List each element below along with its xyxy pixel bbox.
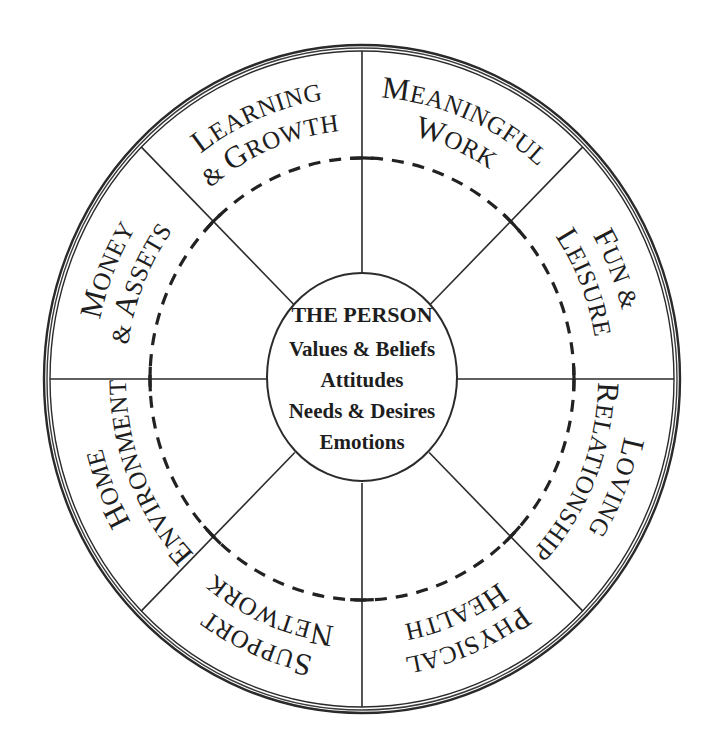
hub-line-values: Values & Beliefs: [289, 337, 435, 361]
dashed-tick: [503, 526, 520, 544]
hub-line-attitudes: Attitudes: [321, 368, 404, 392]
spoke-line: [429, 147, 582, 305]
hub-title: THE PERSON: [291, 302, 432, 327]
hub-line-emotions: Emotions: [319, 430, 404, 454]
dashed-tick: [204, 526, 221, 544]
sector-label-loving-relationship: LOVINGRELATIONSHIP: [528, 382, 652, 567]
dashed-tick: [204, 214, 221, 232]
life-wheel-diagram: THE PERSON Values & Beliefs Attitudes Ne…: [0, 0, 714, 747]
hub-line-needs: Needs & Desires: [289, 399, 436, 423]
center-hub: THE PERSON Values & Beliefs Attitudes Ne…: [267, 273, 457, 481]
sector-label-home-environment-line2: ENVIRONMENT: [104, 379, 200, 573]
sector-label-meaningful-work: MEANINGFULWORK: [380, 70, 553, 174]
sector-label-home-environment: HOMEENVIRONMENT: [81, 379, 200, 573]
sector-label-money-assets: MONEY& ASSETS: [73, 217, 177, 346]
dashed-tick: [503, 214, 520, 232]
sector-label-support-network: SUPPORTNETWORK: [196, 570, 336, 684]
sector-label-learning-growth: LEARNING& GROWTH: [184, 78, 341, 192]
sector-label-fun-leisure: FUN &LEISURE: [549, 221, 643, 338]
